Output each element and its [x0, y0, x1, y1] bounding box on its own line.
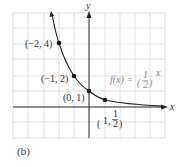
point-label-neg1-2: (−1, 2) — [41, 73, 68, 85]
svg-text:2: 2 — [113, 118, 118, 129]
svg-text:(: ( — [137, 77, 141, 89]
svg-text:(: ( — [97, 118, 101, 130]
svg-text:): ) — [148, 77, 153, 89]
svg-text:f(x) =: f(x) = — [110, 74, 133, 86]
point-label-1-half: ( 1, 1 2 ) — [97, 108, 122, 130]
svg-text:2: 2 — [143, 79, 148, 90]
function-label: f(x) = ( 1 2 ) x — [110, 67, 161, 90]
x-axis-arrow-icon — [161, 105, 168, 110]
point-neg2-4 — [57, 41, 62, 46]
point-neg1-2 — [72, 74, 77, 79]
y-axis-label: y — [85, 0, 91, 11]
x-axis-label: x — [169, 101, 175, 112]
svg-text:): ) — [119, 118, 122, 130]
svg-text:x: x — [155, 67, 161, 78]
point-label-0-1: (0, 1) — [63, 92, 85, 104]
exponential-graph: x y (−2, 4) (−1, 2) (0, 1) ( 1, 1 2 ) f(… — [0, 0, 181, 167]
figure-caption: (b) — [17, 145, 30, 157]
y-axis-arrow-icon — [87, 11, 92, 18]
point-0-1 — [87, 89, 92, 94]
point-label-neg2-4: (−2, 4) — [25, 38, 52, 50]
point-1-half — [103, 98, 108, 103]
curve-arrow-icon — [50, 11, 55, 17]
svg-text:1,: 1, — [103, 115, 111, 126]
